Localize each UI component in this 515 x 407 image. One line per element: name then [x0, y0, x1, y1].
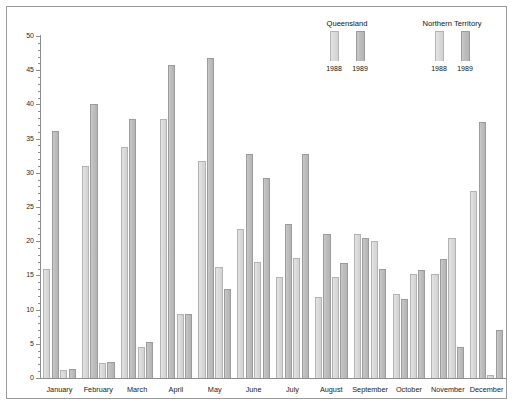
- bar: [146, 342, 153, 378]
- bar: [129, 119, 136, 378]
- y-tick-label: 15: [12, 271, 34, 278]
- bar: [487, 375, 494, 378]
- bar: [246, 154, 253, 378]
- x-category-label: March: [118, 385, 157, 394]
- bar: [354, 234, 361, 378]
- bar: [276, 277, 283, 378]
- bar: [224, 289, 231, 378]
- x-category-label: July: [273, 385, 312, 394]
- y-tick-label: 50: [12, 32, 34, 39]
- bar: [207, 58, 214, 378]
- bar: [457, 347, 464, 378]
- x-category-label: October: [390, 385, 429, 394]
- bar: [479, 122, 486, 379]
- bar: [332, 277, 339, 378]
- legend-year-labels: 19881989: [407, 65, 497, 77]
- y-tick-major: [36, 378, 40, 379]
- bar: [99, 363, 106, 378]
- bar: [254, 262, 261, 378]
- bar: [52, 131, 59, 378]
- x-category-label: June: [234, 385, 273, 394]
- legend-year-labels: 19881989: [312, 65, 382, 77]
- y-tick-label: 30: [12, 169, 34, 176]
- legend-group-title: Northern Territory: [407, 19, 497, 28]
- bar: [121, 147, 128, 378]
- bar: [401, 299, 408, 378]
- bar: [138, 347, 145, 378]
- bar: [107, 362, 114, 378]
- bar: [177, 314, 184, 378]
- x-category-label: August: [312, 385, 351, 394]
- chart-legend: Queensland19881989Northern Territory1988…: [312, 19, 487, 91]
- bar: [285, 224, 292, 378]
- bar: [82, 166, 89, 378]
- legend-group: Queensland19881989: [312, 19, 382, 77]
- bar: [496, 330, 503, 378]
- bar: [43, 269, 50, 378]
- legend-swatch-1989: [356, 31, 365, 61]
- y-tick-label: 20: [12, 237, 34, 244]
- legend-swatches: [312, 31, 382, 63]
- bar: [263, 178, 270, 378]
- x-category-label: April: [157, 385, 196, 394]
- x-category-label: November: [428, 385, 467, 394]
- legend-swatch-1988: [330, 31, 339, 61]
- bar: [379, 269, 386, 378]
- bar: [69, 369, 76, 378]
- legend-year-label: 1988: [323, 65, 345, 72]
- bar: [431, 274, 438, 378]
- bar: [237, 229, 244, 378]
- bar: [323, 234, 330, 378]
- legend-swatches: [407, 31, 497, 63]
- bar: [198, 161, 205, 379]
- legend-swatch-1988: [435, 31, 444, 61]
- bar: [60, 370, 67, 378]
- y-tick-label: 10: [12, 306, 34, 313]
- bar: [393, 294, 400, 378]
- legend-group-title: Queensland: [312, 19, 382, 28]
- bar: [302, 154, 309, 378]
- y-tick-label: 5: [12, 340, 34, 347]
- legend-year-label: 1988: [428, 65, 450, 72]
- x-category-label: May: [195, 385, 234, 394]
- legend-year-label: 1989: [454, 65, 476, 72]
- x-category-label: February: [79, 385, 118, 394]
- legend-year-label: 1989: [349, 65, 371, 72]
- bar: [160, 119, 167, 378]
- bar: [315, 297, 322, 378]
- bar: [410, 274, 417, 378]
- y-tick-label: 40: [12, 100, 34, 107]
- x-axis-line: [40, 378, 506, 379]
- legend-swatch-1989: [461, 31, 470, 61]
- bar: [448, 238, 455, 378]
- bar: [418, 270, 425, 378]
- y-tick-label: 35: [12, 135, 34, 142]
- bar: [168, 65, 175, 378]
- x-category-label: December: [467, 385, 506, 394]
- y-tick-label: 0: [12, 374, 34, 381]
- bar: [185, 314, 192, 378]
- bar: [293, 258, 300, 378]
- bar: [470, 191, 477, 378]
- x-category-label: January: [40, 385, 79, 394]
- bar: [362, 238, 369, 378]
- bar: [340, 263, 347, 378]
- legend-group: Northern Territory19881989: [407, 19, 497, 77]
- x-category-label: September: [351, 385, 390, 394]
- bar: [90, 104, 97, 378]
- chart-frame: 05101520253035404550 JanuaryFebruaryMarc…: [6, 6, 507, 399]
- y-tick-label: 45: [12, 66, 34, 73]
- bar: [215, 267, 222, 378]
- y-tick-label: 25: [12, 203, 34, 210]
- bar: [440, 259, 447, 378]
- bar: [371, 241, 378, 378]
